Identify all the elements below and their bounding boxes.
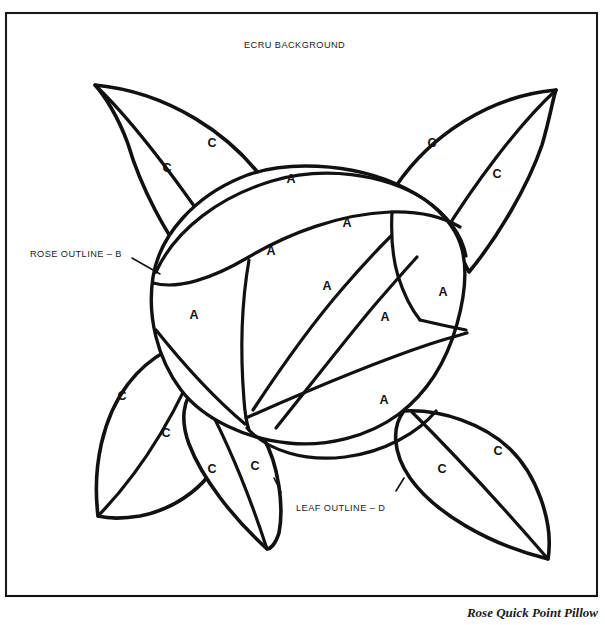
zone-label: A: [266, 244, 275, 258]
zone-label: A: [438, 285, 447, 299]
zone-label: C: [161, 426, 170, 440]
zone-label: C: [162, 161, 171, 175]
callout-ecru-background: ECRU BACKGROUND: [244, 40, 345, 50]
zone-label: C: [437, 462, 446, 476]
zone-label: A: [189, 308, 198, 322]
zone-label: C: [207, 136, 216, 150]
zone-label: A: [379, 393, 388, 407]
zone-label: A: [322, 279, 331, 293]
zone-label: C: [427, 136, 436, 150]
zone-label: C: [250, 459, 259, 473]
pattern-page: C C C C A A A A A A A A C C C C C C ECRU…: [0, 0, 605, 625]
zone-label: A: [286, 172, 295, 186]
pattern-illustration: C C C C A A A A A A A A C C C C C C: [0, 0, 605, 625]
zone-label: C: [207, 462, 216, 476]
zone-label: C: [493, 444, 502, 458]
callout-leaf-outline: LEAF OUTLINE – D: [296, 503, 385, 513]
zone-label: C: [492, 167, 501, 181]
zone-label: C: [117, 389, 126, 403]
zone-label: A: [380, 310, 389, 324]
figure-caption: Rose Quick Point Pillow: [467, 605, 598, 621]
zone-label: A: [342, 216, 351, 230]
callout-rose-outline: ROSE OUTLINE – B: [30, 249, 122, 259]
